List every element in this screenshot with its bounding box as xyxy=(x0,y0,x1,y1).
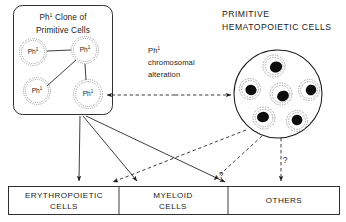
question-mark-left: ? xyxy=(219,170,224,180)
clone-box-title-line1: Ph1 Clone of xyxy=(39,13,87,22)
clone-link-ul-ur xyxy=(47,50,71,51)
arrow-primitive-to-erythropoietic xyxy=(113,130,246,182)
middle-label-line2: chromosomal xyxy=(148,58,195,67)
clone-cell-label-upper-right: Ph1 xyxy=(80,45,91,53)
arrow-clone-to-erythropoietic xyxy=(79,116,80,181)
clone-cell-label-upper-left: Ph1 xyxy=(28,47,39,55)
diagram-canvas: Ph1 Clone of Primitive Cells ? ? xyxy=(0,0,346,222)
hcell-bottom-right xyxy=(287,111,308,132)
hcell-bottom-left xyxy=(253,107,275,129)
outcome-label-others-line1: OTHERS xyxy=(266,196,303,205)
outcome-label-erythropoietic-line2: CELLS xyxy=(50,202,78,211)
question-mark-right: ? xyxy=(283,155,288,165)
clone-box-title-line2: Primitive Cells xyxy=(36,26,90,35)
clone-cell-label-lower-left: Ph1 xyxy=(32,86,43,94)
middle-label-line1: Ph1 xyxy=(148,46,161,55)
hcell-top xyxy=(263,55,285,77)
primitive-title-line1: PRIMITIVE xyxy=(222,9,269,19)
outcome-label-myeloid-line1: MYELOID xyxy=(153,191,193,200)
clone-link-ur-lr xyxy=(85,64,86,80)
outcome-label-erythropoietic-line1: ERYTHROPOIETIC xyxy=(25,191,103,200)
hcell-left xyxy=(240,79,261,100)
middle-label-line3: alteration xyxy=(148,70,180,79)
clone-link-ur-ll xyxy=(47,60,76,86)
arrow-clone-to-others-region xyxy=(86,116,225,182)
hcell-center xyxy=(270,83,292,105)
clone-cell-label-lower-right: Ph1 xyxy=(83,89,94,97)
arrow-clone-to-myeloid xyxy=(83,116,137,181)
figure-svg: Ph1 Clone of Primitive Cells ? ? xyxy=(0,0,346,222)
primitive-title-line2: HEMATOPOIETIC CELLS xyxy=(222,22,331,32)
hcell-right xyxy=(299,80,320,101)
outcome-label-myeloid-line2: CELLS xyxy=(159,202,187,211)
